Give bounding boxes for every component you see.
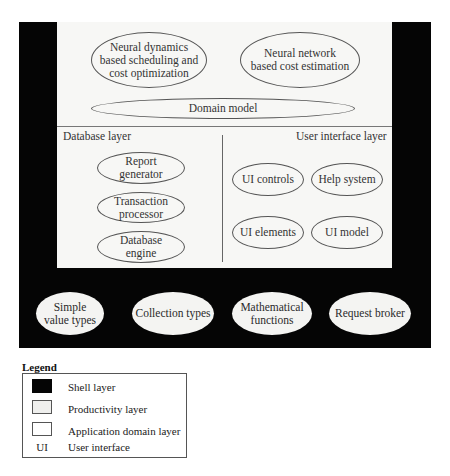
component-label: UI controls [242,173,294,186]
component-ui-elements: UI elements [232,216,304,249]
layer-divider-horizontal [57,126,392,127]
component-database-engine: Database engine [97,231,185,263]
component-label: Mathematical [240,301,303,314]
component-label: functions [240,314,303,327]
legend-title: Legend [22,361,57,373]
component-label: processor [114,208,168,221]
component-label: generator [119,168,162,181]
component-label: Help system [318,173,375,186]
component-request-broker: Request broker [329,292,411,335]
component-simple-value-types: Simple value types [36,292,104,335]
component-label: Request broker [335,307,405,320]
component-report-generator: Report generator [97,152,185,184]
legend-item-ui: UI [32,441,52,453]
component-label: Report [119,155,162,168]
layer-divider-vertical [222,135,223,262]
legend-label: Shell layer [68,381,115,393]
component-label: UI elements [240,226,296,239]
component-domain-model: Domain model [91,98,355,119]
component-label: Collection types [135,307,210,320]
component-label: Neural network [251,47,349,60]
component-label: based scheduling and [100,54,198,67]
component-ui-controls: UI controls [232,163,304,196]
ui-layer-title: User interface layer [296,130,387,142]
component-label: Simple [44,301,96,314]
component-label: UI model [325,226,369,239]
component-transaction-processor: Transaction processor [97,192,185,223]
legend-label: Application domain layer [68,425,180,437]
legend-item-productivity [32,400,52,414]
component-label: Database [120,234,162,247]
component-mathematical-functions: Mathematical functions [232,292,312,335]
component-ui-model: UI model [311,216,383,249]
component-label: Transaction [114,195,168,208]
legend-label: Productivity layer [68,403,147,415]
component-collection-types: Collection types [132,292,214,335]
component-help-system: Help system [311,163,383,196]
application-swatch-icon [32,422,52,436]
component-label: Neural dynamics [100,41,198,54]
component-label: value types [44,314,96,327]
database-layer-title: Database layer [63,130,131,142]
legend-item-shell [32,379,52,393]
component-label: based cost estimation [251,60,349,73]
legend-label: User interface [68,441,130,453]
productivity-swatch-icon [32,400,52,414]
component-neural-dynamics: Neural dynamics based scheduling and cos… [91,32,207,88]
shell-swatch-icon [32,379,52,393]
ui-abbreviation: UI [32,441,52,453]
component-label: Domain model [189,102,258,115]
legend: Shell layer Productivity layer Applicati… [22,373,187,458]
component-label: engine [120,247,162,260]
component-label: cost optimization [100,67,198,80]
component-neural-network: Neural network based cost estimation [240,32,360,88]
legend-item-application [32,422,52,436]
